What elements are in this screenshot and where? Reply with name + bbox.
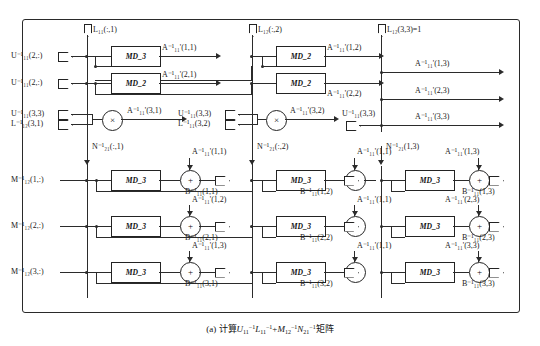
arrow-ain-r1c1 [187, 165, 193, 170]
top-label-L11-col1: L₁₁(:,1) [93, 26, 117, 34]
figure-caption: (a) 计算U11−1L11−1+M12−1N21−1矩阵 [0, 322, 540, 335]
block-md2-r2c1[interactable]: MD_2 [111, 73, 161, 94]
junction-l-c1r1 [85, 179, 88, 182]
junction-col3-r2 [380, 98, 383, 101]
wire-c2-in-r1 [252, 56, 276, 57]
arrow-r2c1 [216, 80, 221, 86]
arrow-ain-r3c2 [352, 257, 358, 262]
label-pass-r2: A⁻¹₁₁'(2,3) [415, 87, 450, 95]
wire-md-add-r2c3 [453, 226, 469, 227]
wire-c3-l-r1 [381, 180, 405, 181]
wire-out-r1c1 [159, 56, 217, 57]
wire-u11a [71, 56, 111, 57]
feed-label-col2: N⁻¹₂₁(:,2) [257, 143, 288, 151]
wire-fb2h [262, 66, 276, 67]
junction-l-c2r3 [250, 271, 253, 274]
wire-c2-r2v [251, 83, 252, 95]
block-md3-r1c1[interactable]: MD_3 [111, 46, 161, 67]
input-label-U11-33-right: U⁻¹₁₁(3,3) [342, 110, 375, 118]
junction-fbl1 [95, 179, 98, 182]
block-md3-l-r3c3[interactable]: MD_3 [405, 262, 455, 283]
feed-arrow-col2 [249, 160, 255, 165]
junction-c1-r2 [85, 82, 88, 85]
block-md3-l-r2c3[interactable]: MD_3 [405, 216, 455, 237]
arrow-pass-r3 [499, 122, 504, 128]
label-out-l-r3c2: B⁻¹₁₁(3,2) [300, 280, 333, 288]
label-out-r2c1: A⁻¹₁₁'(2,1) [162, 71, 197, 79]
input-label-L11-32: L⁻¹₁₁(3,2) [178, 120, 210, 128]
label-ain-r3c2: A⁻¹₁₁'(1,1) [357, 242, 392, 250]
multiplier-1[interactable]: × [102, 110, 123, 131]
wire-fbl2h [262, 191, 276, 192]
wire-c2-l-r3 [252, 272, 276, 273]
multiplier-2[interactable]: × [266, 110, 287, 131]
wire-mul1-b [71, 124, 93, 125]
label-ain-r2c1: A⁻¹₁₁'(1,2) [192, 196, 227, 204]
wire-md-add-r1c2 [324, 180, 345, 181]
figure-canvas: L₁₁(:,1) L₁₂(:,2) L₁₂(3,3)=1 U⁻¹₁₁(2,:) … [0, 0, 540, 346]
caption-text: 计算 [219, 324, 237, 334]
arrow-ain-r2c1 [187, 211, 193, 216]
block-md3-l-r1c3[interactable]: MD_3 [405, 170, 455, 191]
label-out-l-r1c2: B⁻¹₁₁(1,2) [300, 188, 333, 196]
wire-out-l-r2c1 [199, 226, 215, 227]
junction-l-c1r2 [85, 225, 88, 228]
wire-fbl1h [96, 191, 252, 192]
label-ain-r2c2: A⁻¹₁₁'(1,1) [357, 196, 392, 204]
junction-l-c2r1 [250, 179, 253, 182]
top-label-L12-33: L₁₂(3,3)=1 [387, 26, 421, 34]
junction-c2-r2 [250, 82, 253, 85]
wire-out-l-r1c1 [199, 180, 215, 181]
label-ain-r2c3: A⁻¹₁₁'(2,3) [445, 196, 480, 204]
wire-c2-l-r2 [252, 226, 276, 227]
wire-pass-r1 [381, 72, 500, 73]
label-ain-r1c3: A⁻¹₁₁'(1,3) [445, 148, 480, 156]
wire-out-r2c2 [324, 83, 380, 84]
lower-bus-col2 [252, 166, 253, 298]
feed-label-col1: N⁻¹₂₁(:,1) [92, 143, 123, 151]
block-md3-l-r2c1[interactable]: MD_3 [111, 216, 161, 237]
label-pass-r1: A⁻¹₁₁'(1,3) [415, 60, 450, 68]
wire-fbl4h [96, 237, 252, 238]
wire-md-add-r3c2 [324, 272, 345, 273]
junction-c1-r1 [85, 55, 88, 58]
lower-bus-col3 [381, 166, 382, 298]
feed-arrow-col3 [378, 160, 384, 165]
label-out-r1c1: A⁻¹₁₁'(1,1) [162, 44, 197, 52]
junction-l-c3r2 [380, 225, 383, 228]
wire-pass-r2 [381, 99, 500, 100]
input-label-U11-33-mid: U⁻¹₁₁(3,3) [178, 110, 211, 118]
arrow-mul2 [334, 116, 339, 122]
block-md2-r2c2[interactable]: MD_2 [276, 73, 326, 94]
wire-mul1-a [71, 114, 93, 115]
top-label-L12-col2: L₁₂(:,2) [258, 26, 282, 34]
junction-fb3 [94, 82, 97, 85]
junction-l-c1r3 [85, 271, 88, 274]
wire-c2-in-r2 [252, 83, 276, 84]
wire-fbl7h [96, 283, 252, 284]
wire-md-add-r1c3 [453, 180, 469, 181]
block-md3-l-r1c1[interactable]: MD_3 [111, 170, 161, 191]
wire-fb3h [95, 94, 252, 95]
input-label-U11-33-left: U⁻¹₁₁(3,3) [11, 110, 44, 118]
input-label-M12-3: M⁻¹₁₂(3,:) [11, 268, 44, 276]
wire-carry-r1-up [251, 66, 252, 81]
arrow-r2c2 [379, 80, 384, 86]
junction-l-c3r1 [380, 179, 383, 182]
wire-mul2-c [257, 119, 266, 120]
block-md2-r1c2[interactable]: MD_2 [276, 46, 326, 67]
feed-arrow-col1 [84, 160, 90, 165]
input-label-U11-2b: U⁻¹₁₁(2,:) [11, 79, 42, 87]
input-label-M12-1: M⁻¹₁₂(1,:) [11, 176, 44, 184]
arrow-ain-r1c3 [476, 165, 482, 170]
label-out-r1c2: A⁻¹₁₁'(1,2) [327, 44, 362, 52]
wire-md-add-r1c1 [159, 180, 180, 181]
wire-md-add-r3c1 [159, 272, 180, 273]
wire-c3-l-r3 [381, 272, 405, 273]
caption-prefix: (a) [206, 324, 216, 334]
wire-mul1-out [121, 119, 183, 120]
junction-l-c3r3 [380, 271, 383, 274]
wire-mul2-a [238, 114, 258, 115]
block-md3-l-r3c1[interactable]: MD_3 [111, 262, 161, 283]
arrow-ain-r3c3 [476, 257, 482, 262]
